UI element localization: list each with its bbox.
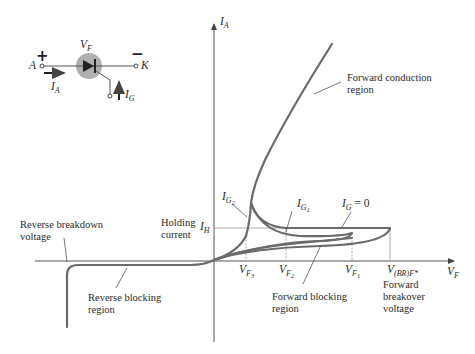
y-axis-label: IA [220,15,229,30]
annotation-reverse-breakdown: Reverse breakdown voltage [20,219,103,243]
tick-vbr: V(BR)F* [387,263,418,278]
annotation-forward-conduction: Forward conduction region [347,72,432,96]
symbol-vf-label: VF [80,38,92,53]
label-ig2: IG2 [222,190,235,206]
cathode-terminal [134,64,138,68]
annotation-forward-blocking: Forward blocking region [272,291,347,315]
annotation-reverse-blocking: Reverse blocking region [88,292,161,316]
label-ig0: IG = 0 [342,197,370,212]
leader-forward-conduction [314,82,341,94]
tick-vf2: VF2 [279,263,294,279]
label-ig1: IG1 [297,197,310,213]
holding-current-symbol: IH [200,220,210,235]
plus-sign: + [36,47,49,65]
anode-current-label: IA [51,80,60,95]
tick-vf3: VF3 [239,263,254,279]
leader-reverse-blocking [116,268,127,288]
x-axis-label: VF [447,265,459,280]
leader-ig0 [342,212,351,227]
annotation-forward-breakover: Forward breakover voltage [383,279,425,315]
cathode-label: K [141,59,149,71]
tick-vf1: VF1 [345,263,360,279]
anode-label: A [29,59,36,71]
annotation-holding-current: Holding current [161,217,195,241]
curve-ig1 [214,203,352,260]
gate-terminal [108,94,112,98]
gate-current-label: IG [125,88,135,103]
leader-forward-blocking [303,245,321,284]
